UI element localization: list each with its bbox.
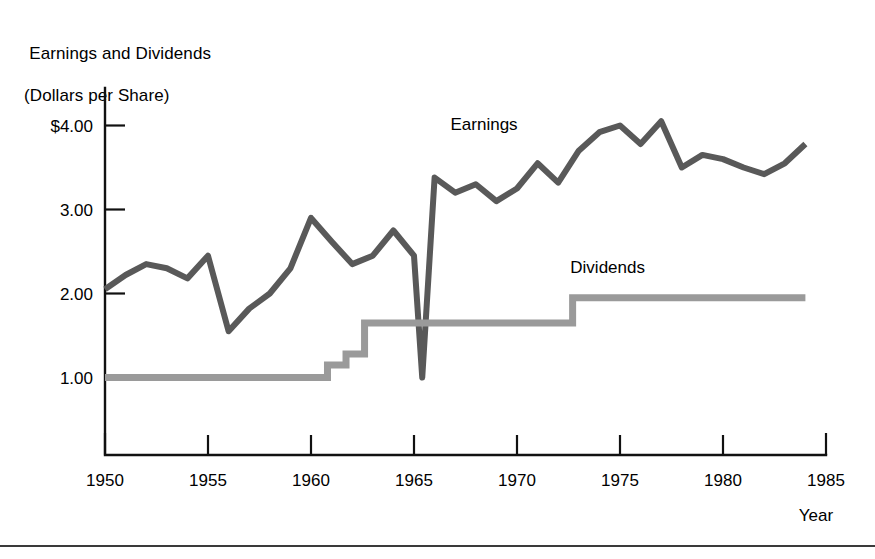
series-annotation: Earnings <box>450 115 517 134</box>
x-tick-label: 1950 <box>86 471 124 490</box>
x-tick-label: 1960 <box>292 471 330 490</box>
y-tick-label: 3.00 <box>60 201 93 220</box>
x-axis-label: Year <box>799 506 834 525</box>
chart-figure: Earnings and Dividends (Dollars per Shar… <box>0 0 875 559</box>
x-axis-ticks: 19501955196019651970197519801985 <box>86 433 845 490</box>
y-tick-label: 1.00 <box>60 369 93 388</box>
series-annotation: Dividends <box>570 258 645 277</box>
x-tick-label: 1955 <box>189 471 227 490</box>
chart-annotations: EarningsDividends <box>450 115 644 277</box>
x-tick-label: 1975 <box>601 471 639 490</box>
y-axis-ticks: 1.002.003.00$4.00 <box>50 117 125 388</box>
line-chart-plot: 1.002.003.00$4.00 1950195519601965197019… <box>0 0 875 559</box>
footer-divider <box>0 545 875 547</box>
y-tick-label: 2.00 <box>60 285 93 304</box>
x-tick-label: 1965 <box>395 471 433 490</box>
x-tick-label: 1985 <box>807 471 845 490</box>
series-line-earnings <box>105 121 805 377</box>
x-tick-label: 1980 <box>704 471 742 490</box>
series-line-dividends <box>105 298 805 378</box>
chart-series-group <box>105 121 805 377</box>
x-tick-label: 1970 <box>498 471 536 490</box>
y-tick-label: $4.00 <box>50 117 93 136</box>
